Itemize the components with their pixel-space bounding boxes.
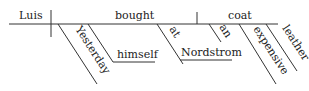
direct-object-word: coat — [228, 9, 252, 22]
sentence-diagram: Luis bought coat Yesterday himself at No… — [0, 0, 309, 91]
indirect-object-word: himself — [117, 48, 159, 61]
verb-word: bought — [115, 9, 155, 22]
subject-word: Luis — [19, 9, 43, 22]
preposition-word: at — [166, 24, 183, 41]
prep-object-word: Nordstrom — [181, 46, 242, 59]
